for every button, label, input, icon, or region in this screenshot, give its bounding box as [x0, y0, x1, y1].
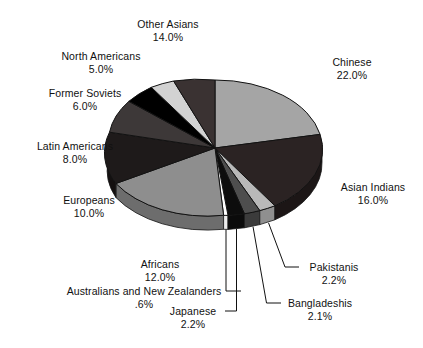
pie-label-bangladeshis: Bangladeshis 2.1%	[280, 297, 360, 322]
slice-wall-australians	[224, 215, 228, 229]
leader-line-australians	[226, 229, 241, 291]
pie-label-asian-indians-value: 16.0%	[327, 194, 419, 207]
pie-label-latin-americans-value: 8.0%	[12, 153, 138, 166]
pie-label-europeans-value: 10.0%	[38, 207, 140, 220]
pie-label-pakistanis: Pakistanis 2.2%	[298, 261, 370, 286]
pie-label-former-soviets-value: 6.0%	[23, 100, 147, 113]
pie-label-latin-americans: Latin Americans 8.0%	[12, 140, 138, 165]
pie-label-africans-name: Africans	[110, 258, 210, 271]
pie-label-japanese: Japanese 2.2%	[162, 305, 224, 330]
pie-label-pakistanis-name: Pakistanis	[298, 261, 370, 274]
pie-label-former-soviets: Former Soviets 6.0%	[23, 87, 147, 112]
pie-label-other-asians: Other Asians 14.0%	[108, 18, 228, 43]
pie-label-bangladeshis-value: 2.1%	[280, 310, 360, 323]
pie-label-bangladeshis-name: Bangladeshis	[280, 297, 360, 310]
slice-wall-japanese	[228, 214, 244, 230]
pie-label-other-asians-value: 14.0%	[108, 31, 228, 44]
pie-label-north-americans-value: 5.0%	[39, 63, 163, 76]
pie-label-chinese: Chinese 22.0%	[311, 56, 393, 81]
pie-label-chinese-value: 22.0%	[311, 69, 393, 82]
pie-label-africans-value: 12.0%	[110, 271, 210, 284]
pie-label-europeans: Europeans 10.0%	[38, 194, 140, 219]
pie-label-former-soviets-name: Former Soviets	[23, 87, 147, 100]
pie-label-japanese-name: Japanese	[162, 305, 224, 318]
pie-label-japanese-value: 2.2%	[162, 318, 224, 331]
pie-label-north-americans-name: North Americans	[39, 50, 163, 63]
pie-chart-figure: Other Asians 14.0% North Americans 5.0% …	[0, 0, 423, 348]
pie-label-chinese-name: Chinese	[311, 56, 393, 69]
pie-label-europeans-name: Europeans	[38, 194, 140, 207]
leader-line-bangladeshis	[253, 227, 281, 303]
pie-label-pakistanis-value: 2.2%	[298, 274, 370, 287]
pie-label-other-asians-name: Other Asians	[108, 18, 228, 31]
leader-line-pakistanis	[269, 223, 300, 267]
pie-label-australians-new-zealanders-name: Australians and New Zealanders	[48, 285, 240, 298]
pie-label-asian-indians-name: Asian Indians	[327, 181, 419, 194]
pie-label-north-americans: North Americans 5.0%	[39, 50, 163, 75]
pie-label-africans: Africans 12.0%	[110, 258, 210, 283]
pie-label-latin-americans-name: Latin Americans	[12, 140, 138, 153]
pie-label-asian-indians: Asian Indians 16.0%	[327, 181, 419, 206]
